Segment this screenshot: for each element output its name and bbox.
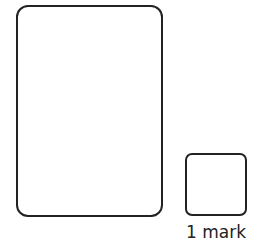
mark-label: 1 mark <box>180 222 252 242</box>
answer-box[interactable] <box>16 5 163 217</box>
mark-box[interactable] <box>185 153 247 216</box>
